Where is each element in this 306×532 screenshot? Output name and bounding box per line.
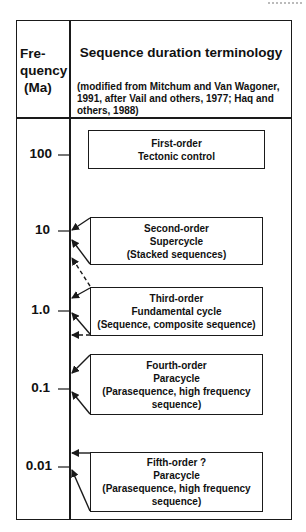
box-line: Fourth-order [91, 359, 262, 372]
third-order-box: Third-order Fundamental cycle (Sequence,… [90, 287, 263, 336]
first-order-box: First-order Tectonic control [88, 130, 265, 169]
box-line: First-order [89, 137, 264, 150]
box-line: (Parasequence, high frequency [91, 482, 262, 495]
box-line: (Parasequence, high frequency [91, 385, 262, 398]
box-line: Tectonic control [89, 150, 264, 163]
box-line: Paracycle [91, 372, 262, 385]
box-line: Fundamental cycle [91, 305, 262, 318]
box-line: (Sequence, composite sequence) [91, 318, 262, 331]
box-line: Fifth-order ? [91, 456, 262, 469]
box-line: (Stacked sequences) [91, 248, 262, 261]
box-line: sequence) [91, 398, 262, 411]
box-line: Third-order [91, 292, 262, 305]
box-line: Supercycle [91, 235, 262, 248]
box-line: Second-order [91, 222, 262, 235]
fourth-order-box: Fourth-order Paracycle (Parasequence, hi… [90, 354, 263, 415]
box-line: Paracycle [91, 469, 262, 482]
fifth-order-box: Fifth-order ? Paracycle (Parasequence, h… [90, 452, 263, 512]
second-order-box: Second-order Supercycle (Stacked sequenc… [90, 217, 263, 265]
box-line: sequence) [91, 495, 262, 508]
